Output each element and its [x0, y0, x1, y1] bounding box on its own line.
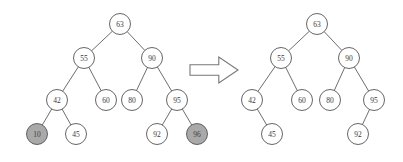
- tree-node-label: 95: [370, 96, 378, 105]
- tree-node-label: 80: [326, 96, 334, 105]
- tree-node-label: 45: [72, 130, 80, 139]
- tree-node[interactable]: 45: [262, 124, 283, 145]
- tree-node[interactable]: 63: [307, 14, 328, 35]
- tree-edge: [136, 67, 147, 91]
- tree-node-label: 92: [354, 130, 362, 139]
- tree-node-label: 60: [102, 96, 110, 105]
- bst-deletion-figure: 6355904260809510459296 63559042608095459…: [0, 0, 403, 162]
- tree-node-label: 42: [248, 96, 256, 105]
- tree-node-label: 63: [313, 20, 321, 29]
- right-arrow-shape: [190, 57, 238, 83]
- tree-node[interactable]: 42: [47, 90, 68, 111]
- tree-node[interactable]: 60: [292, 90, 313, 111]
- tree-node[interactable]: 80: [122, 90, 143, 111]
- tree-edge: [127, 31, 145, 50]
- tree-node-label: 55: [277, 54, 285, 63]
- tree-edge: [62, 66, 78, 91]
- before-tree-nodes: 6355904260809510459296: [27, 14, 208, 145]
- tree-node-label: 90: [148, 54, 156, 63]
- tree-node[interactable]: 90: [339, 48, 360, 69]
- right-arrow-icon: [190, 57, 238, 83]
- tree-edge: [157, 67, 172, 92]
- tree-node[interactable]: 45: [66, 124, 87, 145]
- tree-edge: [258, 66, 276, 92]
- tree-node[interactable]: 60: [96, 90, 117, 111]
- tree-node-label: 90: [345, 54, 353, 63]
- tree-edge: [334, 67, 345, 91]
- tree-node[interactable]: 90: [142, 48, 163, 69]
- tree-edge: [354, 67, 369, 92]
- tree-node[interactable]: 96: [187, 124, 208, 145]
- tree-edge: [285, 67, 297, 91]
- tree-node[interactable]: 92: [147, 124, 168, 145]
- tree-edge: [257, 109, 267, 126]
- tree-node[interactable]: 63: [110, 14, 131, 35]
- tree-node[interactable]: 10: [27, 124, 48, 145]
- before-tree-edges: [42, 31, 192, 126]
- tree-edge: [91, 31, 112, 51]
- tree-edge: [62, 109, 71, 126]
- tree-node[interactable]: 80: [320, 90, 341, 111]
- tree-edge: [288, 31, 309, 51]
- after-tree-nodes: 635590426080954592: [242, 14, 385, 145]
- tree-node-label: 80: [128, 96, 136, 105]
- figure-canvas: 6355904260809510459296 63559042608095459…: [0, 0, 403, 162]
- tree-node[interactable]: 92: [348, 124, 369, 145]
- tree-node-label: 92: [153, 130, 161, 139]
- tree-node-label: 95: [173, 96, 181, 105]
- tree-node[interactable]: 95: [364, 90, 385, 111]
- tree-edge: [362, 109, 369, 125]
- tree-edge: [324, 31, 342, 50]
- tree-edge: [182, 109, 192, 126]
- tree-node-label: 42: [53, 96, 61, 105]
- tree-node[interactable]: 55: [271, 48, 292, 69]
- tree-node-label: 10: [33, 130, 41, 139]
- tree-node[interactable]: 42: [242, 90, 263, 111]
- tree-edge: [89, 67, 102, 91]
- tree-node-label: 55: [80, 54, 88, 63]
- tree-node[interactable]: 95: [167, 90, 188, 111]
- tree-edge: [42, 109, 52, 126]
- tree-edge: [162, 109, 172, 126]
- tree-node[interactable]: 55: [74, 48, 95, 69]
- tree-node-label: 96: [193, 130, 201, 139]
- tree-node-label: 45: [268, 130, 276, 139]
- tree-node-label: 63: [116, 20, 124, 29]
- tree-node-label: 60: [298, 96, 306, 105]
- after-tree-edges: [257, 31, 370, 126]
